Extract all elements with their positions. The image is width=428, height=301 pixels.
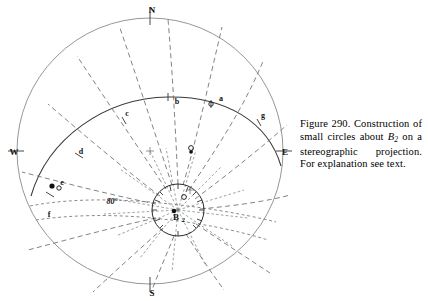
cardinal-label-n: N	[149, 5, 156, 15]
dashed-great-circles	[22, 19, 290, 293]
b2-label-subscript: 2	[182, 217, 185, 223]
great-circle-point-ticks	[46, 93, 261, 197]
point-label-e: e	[60, 178, 64, 187]
b2-label: B	[173, 212, 179, 222]
pole-marker-upper-right-open-icon	[189, 146, 194, 151]
point-label-f: f	[48, 210, 51, 219]
figure-caption: Figure 290. Construction of small circle…	[300, 118, 422, 171]
point-label-c: c	[125, 109, 129, 118]
net-center-cross-icon	[146, 147, 154, 155]
inner-cross-icon	[186, 186, 194, 194]
construction-rays	[104, 148, 248, 272]
point-label-d: d	[79, 147, 84, 156]
point-label-g: g	[261, 111, 265, 120]
cardinal-label-s: S	[149, 288, 154, 298]
great-circle-arc	[31, 97, 281, 196]
pole-marker-left-edge-dot-icon	[49, 183, 54, 188]
cardinal-label-e: E	[282, 147, 288, 157]
figure-page: N E S W a b c d e f g 80° B 2 Figure 290…	[0, 0, 428, 301]
stereographic-projection-diagram: N E S W a b c d e f g 80° B 2	[0, 0, 300, 301]
point-label-b: b	[175, 97, 180, 106]
point-label-a: a	[219, 94, 223, 103]
cardinal-label-w: W	[10, 147, 19, 157]
pole-marker-inner-open-icon	[182, 195, 187, 200]
pole-marker-upper-right-dot-icon	[189, 150, 193, 154]
angle-label-80deg: 80°	[106, 197, 118, 206]
